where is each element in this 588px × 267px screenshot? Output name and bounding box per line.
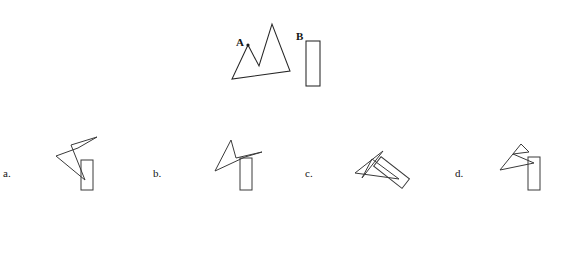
option-a-figure[interactable] <box>56 137 97 190</box>
option-b-figure[interactable] <box>215 140 262 190</box>
option-label-d[interactable]: d. <box>455 168 463 179</box>
option-label-a[interactable]: a. <box>3 168 11 179</box>
option-a-polygon <box>56 137 97 180</box>
option-label-b[interactable]: b. <box>153 168 161 179</box>
mental-rotation-task-canvas: A B <box>0 0 588 267</box>
option-c-rect <box>374 157 410 189</box>
option-b-polygon <box>215 140 262 171</box>
option-label-c[interactable]: c. <box>305 168 313 179</box>
option-d-figure[interactable] <box>500 144 540 190</box>
option-c-figure[interactable] <box>355 151 409 188</box>
option-b-rect <box>240 158 252 190</box>
options-svg <box>0 0 588 267</box>
answer-options-row: a. b. c. d. <box>0 0 588 267</box>
option-d-rect <box>528 157 540 190</box>
